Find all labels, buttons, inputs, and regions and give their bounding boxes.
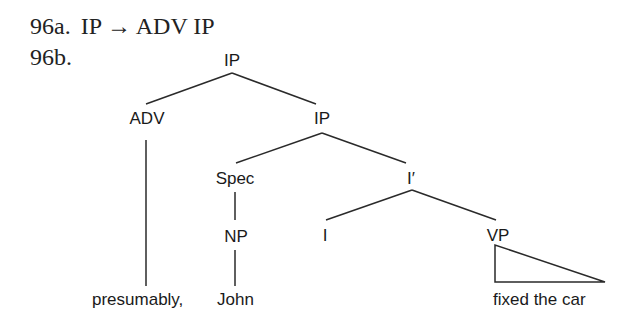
edge-ip2-ibar xyxy=(322,133,406,163)
edge-ip-adv xyxy=(146,73,232,104)
node-root-ip: IP xyxy=(224,51,240,70)
leaf-john: John xyxy=(217,290,254,309)
node-adv: ADV xyxy=(130,109,166,128)
syntax-tree: IP ADV IP Spec I′ NP I VP presumably, Jo… xyxy=(0,0,638,329)
edge-ip2-spec xyxy=(236,133,322,163)
edge-ibar-i xyxy=(326,190,412,220)
node-ibar: I′ xyxy=(407,169,415,188)
edge-ibar-vp xyxy=(412,190,496,220)
node-i: I xyxy=(323,226,328,245)
node-spec: Spec xyxy=(216,169,255,188)
leaf-fixed-the-car: fixed the car xyxy=(493,290,586,309)
leaf-presumably: presumably, xyxy=(92,290,183,309)
vp-triangle xyxy=(495,245,605,282)
node-ip: IP xyxy=(314,109,330,128)
edge-ip-ip2 xyxy=(232,73,316,104)
node-vp: VP xyxy=(487,226,510,245)
node-np: NP xyxy=(224,227,248,246)
